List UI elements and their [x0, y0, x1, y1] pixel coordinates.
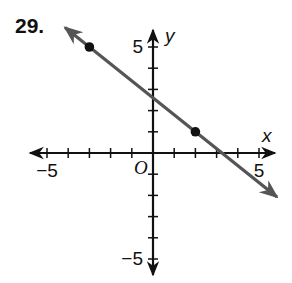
origin-label: O: [134, 157, 148, 178]
data-point: [85, 42, 95, 52]
axis-labels: −555−5xyO: [36, 25, 273, 269]
coordinate-plane: −555−5xyO: [0, 0, 292, 283]
x-tick-label: −5: [36, 160, 58, 181]
plotted-line: [65, 27, 277, 197]
y-tick-label: −5: [121, 248, 143, 269]
y-axis-label: y: [163, 25, 176, 46]
data-point: [191, 127, 201, 137]
graph-line: [65, 27, 277, 197]
x-axis-label: x: [261, 125, 273, 146]
y-tick-label: 5: [132, 36, 143, 57]
